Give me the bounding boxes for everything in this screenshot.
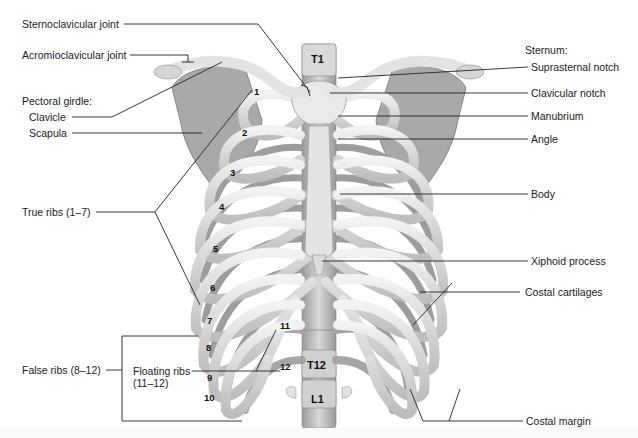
acromion-left (154, 65, 182, 79)
acromion-right (456, 65, 484, 79)
bottom-band (0, 428, 638, 438)
label-angle: Angle (531, 133, 558, 145)
label-acromioclavicular-joint: Acromioclavicular joint (22, 49, 126, 61)
rib-number-9: 9 (207, 373, 212, 383)
label-suprasternal-notch: Suprasternal notch (531, 61, 619, 73)
rib-number-10: 10 (204, 393, 215, 403)
label-pectoral-girdle-heading: Pectoral girdle: (22, 95, 92, 107)
label-clavicular-notch: Clavicular notch (531, 87, 606, 99)
rib-number-3: 3 (230, 168, 235, 178)
rib-number-6: 6 (210, 283, 215, 293)
vertebra-label-l1: L1 (311, 393, 324, 405)
rib-number-7: 7 (207, 316, 212, 326)
label-costal-margin: Costal margin (526, 415, 591, 427)
label-floating-ribs: Floating ribs (133, 365, 190, 377)
label-true-ribs: True ribs (1–7) (22, 206, 90, 218)
rib-number-5: 5 (213, 244, 218, 254)
label-manubrium: Manubrium (531, 110, 584, 122)
label-clavicle: Clavicle (29, 111, 66, 123)
label-body: Body (531, 188, 555, 200)
rib-number-2: 2 (242, 128, 247, 138)
rib-number-4: 4 (219, 202, 224, 212)
rib-number-1: 1 (254, 87, 259, 97)
label-costal-cartilages: Costal cartilages (525, 286, 603, 298)
label-sternoclavicular-joint: Sternoclavicular joint (22, 18, 119, 30)
label-xiphoid-process: Xiphoid process (531, 255, 606, 267)
rib-number-11: 11 (280, 321, 290, 331)
label-floating-ribs-range: (11–12) (133, 377, 168, 389)
label-false-ribs: False ribs (8–12) (22, 364, 101, 376)
rib-number-12: 12 (280, 362, 291, 372)
vertebra-label-t1: T1 (311, 53, 324, 65)
label-sternum-heading: Sternum: (525, 44, 568, 56)
rib-number-8: 8 (206, 343, 211, 353)
thoracic-cage-diagram: Sternoclavicular joint Acromioclavicular… (0, 0, 638, 438)
label-scapula: Scapula (29, 127, 67, 139)
vertebra-label-t12: T12 (307, 359, 326, 371)
